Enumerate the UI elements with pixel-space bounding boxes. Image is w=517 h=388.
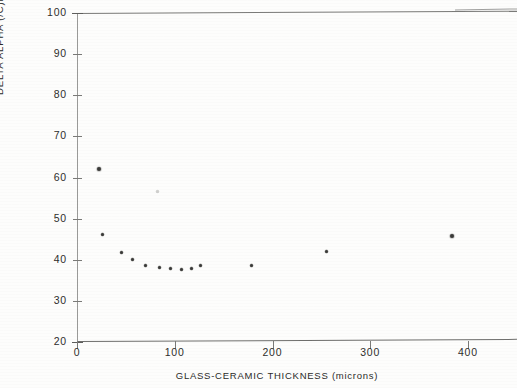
- data-point: [250, 264, 253, 267]
- data-point: [180, 268, 183, 271]
- data-point: [158, 266, 161, 269]
- data-point: [325, 250, 328, 253]
- data-point: [169, 267, 172, 270]
- y-tick-90: [73, 54, 82, 55]
- data-point: [144, 264, 147, 267]
- plot-area: 2030405060708090100 0100200300400: [77, 13, 517, 342]
- y-tick-30: [73, 301, 82, 302]
- y-tick-80: [73, 95, 82, 96]
- y-tick-40: [73, 260, 82, 261]
- data-point: [97, 167, 101, 171]
- data-point: [199, 264, 202, 267]
- y-tick-100: [72, 13, 83, 14]
- y-axis-title-wrap: DELTA ALPHA (/C)E-7: [0, 0, 40, 388]
- x-axis-title: GLASS-CERAMIC THICKNESS (microns): [77, 370, 477, 381]
- y-tick-70: [73, 136, 82, 137]
- y-tick-50: [73, 219, 82, 220]
- scatter-chart-figure: 2030405060708090100 0100200300400 DELTA …: [0, 0, 517, 388]
- data-point: [101, 233, 104, 236]
- x-tick-label-400: 400: [446, 346, 490, 358]
- data-point: [120, 251, 123, 254]
- y-axis-title: DELTA ALPHA (/C)E-7: [0, 0, 5, 95]
- y-tick-60: [73, 178, 82, 179]
- x-tick-label-100: 100: [153, 346, 197, 358]
- x-axis-line: [77, 339, 517, 342]
- x-tick-label-300: 300: [348, 346, 392, 358]
- x-tick-label-0: 0: [55, 346, 99, 358]
- data-point: [190, 267, 193, 270]
- data-point: [450, 234, 454, 238]
- data-point: [131, 258, 134, 261]
- data-point: [156, 190, 159, 193]
- x-tick-label-200: 200: [251, 346, 295, 358]
